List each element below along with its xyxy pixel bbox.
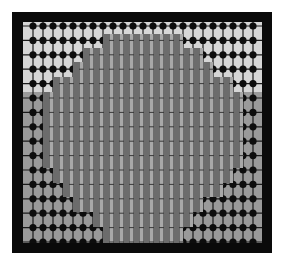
image-frame [12,12,272,253]
image-canvas [23,22,262,243]
grid-bar-artwork [23,22,262,243]
